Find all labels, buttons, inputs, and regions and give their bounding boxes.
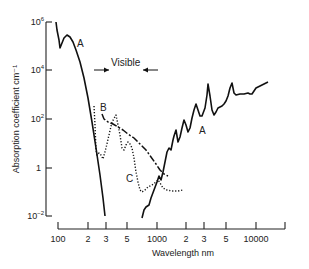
x-tick-1000: 1000 <box>147 234 167 244</box>
absorption-chart: 106 104 102 1 10−2 100 2 3 5 1000 2 3 5 … <box>0 0 309 269</box>
x-tick-labels: 100 2 3 5 1000 2 3 5 10000 <box>50 234 268 244</box>
curve-c-label: C <box>126 173 133 184</box>
x-tick-100: 100 <box>50 234 65 244</box>
y-tick-1: 1 <box>36 163 41 173</box>
x-tick-3000: 3 <box>201 234 206 244</box>
y-tick-1e-2: 10−2 <box>27 210 45 221</box>
visible-label: Visible <box>111 57 141 68</box>
curve-b-label: B <box>100 102 107 113</box>
y-tick-1e6: 106 <box>31 16 45 27</box>
y-tick-1e2: 102 <box>31 113 45 124</box>
y-axis-title: Absorption coefficient cm⁻¹ <box>11 59 21 179</box>
y-axis <box>46 22 52 216</box>
x-tick-300: 3 <box>103 234 108 244</box>
visible-annotation: Visible <box>94 57 158 73</box>
curve-a-ir <box>142 82 268 218</box>
x-axis <box>58 222 285 229</box>
arrow-right-icon <box>104 68 109 73</box>
x-tick-10000: 10000 <box>243 234 268 244</box>
x-axis-title: Wavelength nm <box>152 248 214 258</box>
y-tick-labels: 106 104 102 1 10−2 <box>27 16 45 221</box>
x-tick-500: 5 <box>124 234 129 244</box>
x-tick-200: 2 <box>85 234 90 244</box>
curve-a-uv <box>56 22 105 216</box>
arrow-left-icon <box>143 68 148 73</box>
x-tick-2000: 2 <box>183 234 188 244</box>
curve-a-label-ir: A <box>199 125 206 136</box>
x-tick-5000: 5 <box>223 234 228 244</box>
y-tick-1e4: 104 <box>31 64 45 75</box>
curve-a-label-uv: A <box>77 38 84 49</box>
